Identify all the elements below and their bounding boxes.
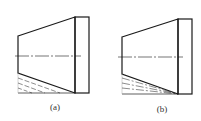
fan-line-b2: [122, 83, 178, 94]
flange-b: [178, 19, 192, 94]
cone-outline-b: [122, 19, 178, 94]
taper-line-a3: [18, 88, 32, 93]
figure-a: [15, 17, 89, 93]
figure-b: [118, 19, 192, 94]
flange-a: [75, 17, 89, 93]
taper-line-a2: [18, 83, 45, 93]
fan-line-b1: [122, 78, 178, 94]
technical-drawing: [0, 0, 201, 121]
figure-a-label: (a): [40, 102, 70, 112]
cone-outline-a: [18, 17, 75, 93]
figure-b-label: (b): [147, 104, 177, 114]
